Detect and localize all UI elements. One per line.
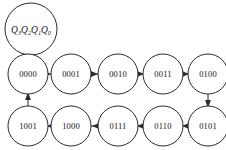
state-node-0101[interactable]: 0101: [188, 106, 226, 146]
state-node-0011[interactable]: 0011: [143, 54, 183, 94]
state-node-0010[interactable]: 0010: [98, 54, 138, 94]
arrow-head-icon: [91, 71, 98, 77]
legend-node: Q3Q2Q1Q0: [5, 3, 57, 55]
state-node-label: 0000: [19, 69, 37, 79]
state-node-0100[interactable]: 0100: [188, 54, 226, 94]
state-node-label: 1001: [19, 121, 37, 131]
legend-label: Q3Q2Q1Q0: [11, 25, 52, 36]
state-node-label: 0011: [154, 69, 171, 79]
state-node-0001[interactable]: 0001: [51, 54, 91, 94]
state-node-label: 0111: [110, 121, 127, 131]
state-node-label: 0010: [109, 69, 127, 79]
state-node-1000[interactable]: 1000: [51, 106, 91, 146]
state-transition-diagram: Q3Q2Q1Q0 0000 0001 0010 0011 0100: [0, 0, 226, 150]
state-node-0000[interactable]: 0000: [8, 54, 48, 94]
state-node-0110[interactable]: 0110: [143, 106, 183, 146]
state-node-label: 1000: [62, 121, 80, 131]
diagram-canvas: Q3Q2Q1Q0 0000 0001 0010 0011 0100: [0, 0, 226, 150]
nodes-group: 0000 0001 0010 0011 0100 0101: [8, 54, 226, 146]
state-node-label: 0101: [199, 121, 217, 131]
state-node-label: 0100: [199, 69, 217, 79]
state-node-label: 0110: [154, 121, 171, 131]
state-node-label: 0001: [62, 69, 80, 79]
state-node-0111[interactable]: 0111: [98, 106, 138, 146]
state-node-1001[interactable]: 1001: [8, 106, 48, 146]
